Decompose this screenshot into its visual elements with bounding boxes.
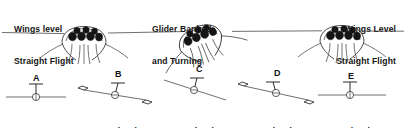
- caption-e: Control Column Centralised: [322, 104, 388, 128]
- stage-letter-d: D: [274, 69, 281, 78]
- caption-d: Control Column Moved to Left: [244, 104, 310, 128]
- stage-letter-b: B: [115, 70, 122, 79]
- diagram-canvas: Wings level Straight Flight Glider Banke…: [0, 0, 406, 128]
- control-column-e: [318, 82, 386, 99]
- caption-d-line1: Control Column: [244, 126, 310, 128]
- stage-letter-c: C: [196, 65, 203, 74]
- caption-a: Controls Central: [9, 110, 78, 128]
- caption-b-line1: Control Column: [89, 126, 155, 128]
- caption-e-line1: Control Column: [322, 126, 388, 128]
- control-column-d: [238, 82, 314, 104]
- control-column-c: [164, 78, 226, 100]
- stage-letter-e: E: [348, 72, 354, 81]
- caption-c: Control Column Centralised: [166, 104, 232, 128]
- caption-c-line1: Control Column: [166, 126, 232, 128]
- control-column-a: [6, 84, 66, 101]
- stage-letter-a: A: [33, 74, 40, 83]
- control-column-b: [78, 83, 152, 104]
- caption-b: Control Column Moved to Right: [89, 104, 155, 128]
- glider-left: [40, 27, 128, 65]
